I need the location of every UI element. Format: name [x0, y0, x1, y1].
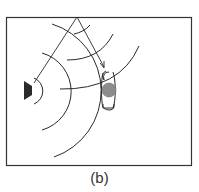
speaker-icon	[24, 81, 32, 100]
acoustic-reflection-diagram	[0, 0, 199, 192]
room-frame	[7, 18, 192, 166]
ear-top-icon	[102, 71, 109, 80]
reflected-wavefront-3	[60, 46, 139, 89]
wavefront-1	[34, 78, 43, 104]
reflected-wavefront-2	[67, 34, 113, 60]
rays	[34, 17, 104, 83]
direct-ray	[34, 17, 77, 83]
arrowhead-icon	[100, 61, 104, 68]
reflected-wavefronts	[60, 25, 139, 89]
head-icon	[102, 83, 116, 97]
ear-bottom-icon	[103, 104, 114, 110]
figure-caption: (b)	[0, 168, 199, 188]
listener	[102, 71, 117, 110]
